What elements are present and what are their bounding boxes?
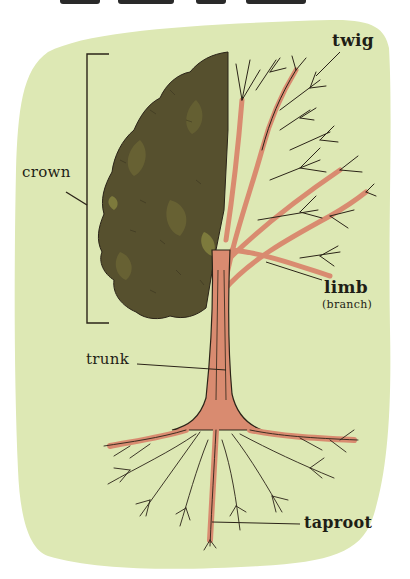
label-crown: crown — [22, 163, 71, 181]
label-twig: twig — [332, 30, 374, 50]
label-branch-note: (branch) — [322, 298, 372, 311]
label-trunk: trunk — [86, 350, 129, 368]
label-limb: limb — [324, 277, 368, 297]
label-taproot: taproot — [304, 513, 372, 532]
